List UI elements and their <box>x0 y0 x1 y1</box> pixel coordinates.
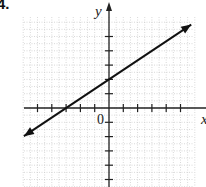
x-axis-label: x <box>200 111 206 127</box>
y-axis-label: y <box>93 3 102 19</box>
axes <box>24 2 206 187</box>
coordinate-plane: y x 0 <box>0 0 206 187</box>
origin-label: 0 <box>97 112 104 127</box>
